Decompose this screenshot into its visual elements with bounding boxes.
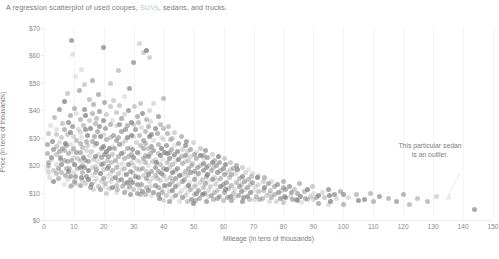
chart-title-highlight: SUVs [140,3,159,12]
scatter-point [167,189,172,194]
scatter-point [114,165,119,170]
scatter-point [179,134,184,139]
scatter-point [137,133,142,138]
scatter-point [62,99,67,104]
scatter-point [204,174,209,179]
scatter-point [188,154,193,159]
scatter-point [117,142,122,147]
scatter-point [240,199,245,204]
scatter-point [165,131,170,136]
scatter-point [48,123,53,128]
scatter-point [206,194,211,199]
outlier-annotation: This particular sedan is an outlier. [378,141,482,159]
scatter-point [141,173,146,178]
scatter-point [256,182,261,187]
chart-title-part1: A regression scatterplot of used coupes, [6,3,140,12]
scatter-point [240,165,245,170]
scatter-point [141,156,146,161]
scatter-point [81,123,86,128]
scatter-point [122,156,127,161]
x-axis-tick-label: 120 [398,223,409,230]
scatter-point [209,168,214,173]
scatter-point [201,153,206,158]
scatter-point [110,168,115,173]
x-axis-tick-label: 130 [428,223,439,230]
scatter-point [107,186,112,191]
scatter-point [90,173,95,178]
scatter-point [128,169,133,174]
scatter-point [137,167,142,172]
scatter-point [354,192,359,197]
gridline-vertical [463,28,464,220]
scatter-point [229,198,234,203]
scatter-point [110,144,115,149]
scatter-point [94,176,99,181]
scatter-point [54,162,59,167]
x-axis-tick-label: 50 [190,223,197,230]
scatter-point [170,188,175,193]
scatter-point [109,160,114,165]
scatter-point [153,183,158,188]
scatter-point [51,179,56,184]
scatter-point [256,189,261,194]
scatter-point [110,185,115,190]
scatter-point [164,143,169,148]
x-axis-tick-label: 110 [368,223,379,230]
scatter-point [122,172,127,177]
scatter-point [50,139,55,144]
scatter-point [155,176,160,181]
scatter-point [231,166,236,171]
scatter-point [165,160,170,165]
scatter-point [54,171,59,176]
scatter-point [58,157,63,162]
scatter-point [241,195,246,200]
scatter-point [215,188,220,193]
scatter-point [67,166,72,171]
gridline-vertical [373,28,374,220]
scatter-point [148,119,153,124]
scatter-point [338,189,343,194]
scatter-point [98,171,103,176]
scatter-point [79,175,84,180]
scatter-point [78,165,83,170]
scatter-point [95,129,100,134]
scatter-point [105,166,110,171]
scatter-point [170,162,175,167]
scatter-point [184,139,189,144]
scatter-point [239,189,244,194]
scatter-point [111,98,116,103]
scatter-point [268,188,273,193]
scatter-point [79,67,84,72]
scatter-point [201,161,206,166]
scatter-point [140,111,145,116]
scatter-point [47,175,52,180]
scatter-point [116,162,121,167]
chart-title: A regression scatterplot of used coupes,… [6,3,227,12]
scatter-point [394,199,399,204]
scatter-point [96,184,101,189]
scatter-point [186,166,191,171]
scatter-point [128,145,133,150]
scatter-point [407,202,412,207]
scatter-point [275,182,280,187]
scatter-point [143,129,148,134]
scatter-point [128,177,133,182]
scatter-point [149,144,154,149]
scatter-point [84,148,89,153]
gridline-vertical [134,28,135,220]
scatter-point [173,168,178,173]
scatter-point [62,148,67,153]
scatter-point [153,126,158,131]
x-axis-tick-label: 80 [280,223,287,230]
scatter-point [227,175,232,180]
scatter-point [204,199,209,204]
scatter-point [147,108,152,113]
scatter-point [316,193,321,198]
scatter-point [146,146,151,151]
scatter-point [156,185,161,190]
scatter-point [76,127,81,132]
scatter-point [234,163,239,168]
x-axis-tick-label: 150 [487,223,498,230]
x-axis-tick-label: 40 [160,223,167,230]
scatter-point [254,194,259,199]
